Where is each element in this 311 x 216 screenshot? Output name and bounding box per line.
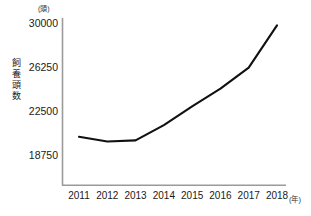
x-tick-label: 2012 xyxy=(96,190,118,201)
plot-area xyxy=(0,0,311,216)
x-tick-label: 2017 xyxy=(238,190,260,201)
x-tick-label: 2013 xyxy=(124,190,146,201)
x-tick-label: 2016 xyxy=(209,190,231,201)
x-tick-label: 2014 xyxy=(153,190,175,201)
data-series-line xyxy=(79,25,277,141)
x-axis-unit-label: (年) xyxy=(289,193,301,204)
line-chart: (頭) 飼養頭数 30000 26250 22500 18750 2011201… xyxy=(0,0,311,216)
x-tick-label: 2015 xyxy=(181,190,203,201)
x-tick-label: 2018 xyxy=(266,190,288,201)
x-tick-label: 2011 xyxy=(68,190,90,201)
